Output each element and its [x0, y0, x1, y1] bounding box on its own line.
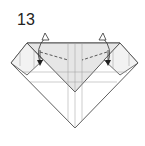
origami-diagram [0, 0, 145, 146]
